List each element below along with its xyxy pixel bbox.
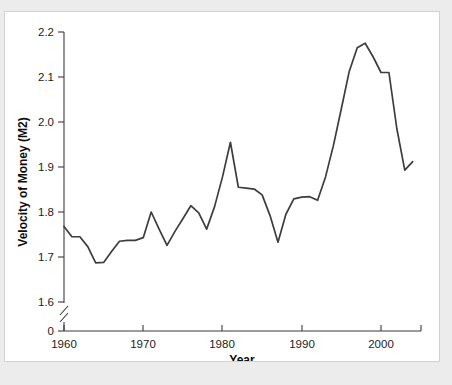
y-tick-label-1-7: 1.7	[38, 251, 54, 263]
velocity-of-money-line-chart: 2.2 2.1 2.0 1.9 1.8 1.7 1.6 0 1960 1970 …	[5, 12, 439, 361]
y-tick-label-2-0: 2.0	[38, 116, 54, 128]
x-tick-group	[64, 325, 421, 331]
x-tick-label-1980: 1980	[209, 338, 235, 350]
x-tick-label-2000: 2000	[368, 338, 394, 350]
y-tick-label-2-1: 2.1	[38, 71, 54, 83]
y-tick-label-1-9: 1.9	[38, 161, 54, 173]
y-tick-label-zero: 0	[48, 325, 54, 337]
y-axis-title: Velocity of Money (M2)	[16, 117, 30, 246]
x-tick-label-1960: 1960	[51, 338, 77, 350]
data-series-line	[64, 43, 413, 263]
y-tick-label-1-8: 1.8	[38, 206, 54, 218]
y-axis-break-icon	[60, 306, 68, 322]
x-axis-title: Year	[229, 353, 255, 361]
y-tick-label-2-2: 2.2	[38, 26, 54, 38]
x-tick-label-1970: 1970	[130, 338, 156, 350]
x-tick-label-1990: 1990	[289, 338, 315, 350]
figure-panel: 2.2 2.1 2.0 1.9 1.8 1.7 1.6 0 1960 1970 …	[4, 11, 440, 362]
y-tick-group	[58, 32, 64, 331]
y-tick-label-1-6: 1.6	[38, 296, 54, 308]
